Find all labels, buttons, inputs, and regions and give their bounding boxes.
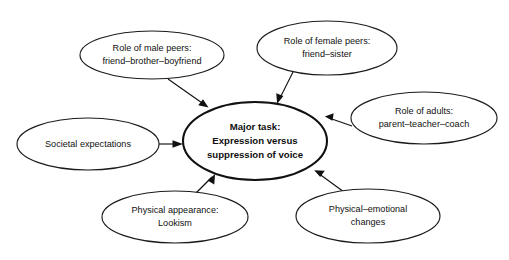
societal-expectations-label: Societal expectations — [45, 139, 131, 149]
role-of-female-peers-label-line1: Role of female peers: — [284, 36, 370, 46]
role-of-male-peers-label-line2: friend–brother–boyfriend — [102, 56, 201, 66]
node-major-task[interactable]: Major task: Expression versus suppressio… — [183, 102, 327, 180]
node-physical-emotional-changes[interactable]: Physical–emotional changes — [296, 189, 440, 243]
node-role-of-male-peers[interactable]: Role of male peers: friend–brother–boyfr… — [80, 31, 224, 79]
physical-emotional-changes-label-line2: changes — [351, 217, 386, 227]
physical-appearance-label-line2: Lookism — [158, 218, 192, 228]
node-societal-expectations[interactable]: Societal expectations — [17, 118, 159, 170]
role-of-female-peers-label-line2: friend–sister — [302, 49, 352, 59]
major-task-label-line1: Major task: — [230, 121, 281, 132]
role-of-female-peers-ellipse[interactable] — [257, 21, 397, 75]
physical-appearance-label-line1: Physical appearance: — [132, 205, 219, 215]
role-of-adults-label-line2: parent–teacher–coach — [379, 119, 470, 129]
physical-emotional-changes-label-line1: Physical–emotional — [329, 204, 407, 214]
major-task-label-line3: suppression of voice — [207, 149, 303, 160]
major-task-label-line2: Expression versus — [212, 135, 297, 146]
node-role-of-female-peers[interactable]: Role of female peers: friend–sister — [257, 21, 397, 75]
concept-map-canvas: Role of male peers: friend–brother–boyfr… — [0, 0, 509, 260]
role-of-male-peers-ellipse[interactable] — [80, 31, 224, 79]
role-of-male-peers-label-line1: Role of male peers: — [113, 43, 192, 53]
physical-emotional-changes-ellipse[interactable] — [296, 189, 440, 243]
node-physical-appearance[interactable]: Physical appearance: Lookism — [102, 191, 248, 243]
role-of-adults-label-line1: Role of adults: — [395, 106, 453, 116]
physical-appearance-ellipse[interactable] — [102, 191, 248, 243]
node-role-of-adults[interactable]: Role of adults: parent–teacher–coach — [351, 92, 497, 144]
concept-map-diagram: Role of male peers: friend–brother–boyfr… — [0, 0, 509, 260]
role-of-adults-ellipse[interactable] — [351, 92, 497, 144]
